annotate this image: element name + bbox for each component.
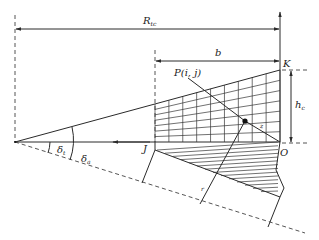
hatch-line xyxy=(205,165,278,170)
hatch-line xyxy=(157,142,278,150)
delta-t-label: δt xyxy=(57,144,66,156)
k-label: K xyxy=(282,58,291,69)
r-tc-label: Rtc xyxy=(142,15,157,27)
hatched-region xyxy=(157,142,278,192)
upper-inclined-line xyxy=(15,70,280,142)
grid-horizontal-line xyxy=(155,101,280,120)
j-label: J xyxy=(141,143,148,154)
r-label: r xyxy=(201,185,205,192)
hatch-line xyxy=(229,176,278,179)
hatch-line xyxy=(173,150,278,157)
b-label: b xyxy=(215,47,221,58)
hatch-line xyxy=(237,180,278,182)
o-radial-line xyxy=(268,197,280,227)
delta-a-arc xyxy=(70,127,74,160)
h-c-label: hc xyxy=(295,99,305,111)
delta-t-arc xyxy=(48,142,50,153)
hatch-line xyxy=(221,172,278,175)
hatch-line xyxy=(165,146,278,153)
hatch-line xyxy=(213,168,278,172)
grid-horizontal-line xyxy=(155,91,280,115)
geometry-diagram: Rtc b hc K O J z r P(i, j) δt δa xyxy=(0,0,319,240)
hatch-line xyxy=(181,153,278,159)
grid-horizontal-line xyxy=(155,80,280,109)
hatch-line xyxy=(245,183,278,185)
o-label: O xyxy=(280,147,288,158)
lower-dashed-line xyxy=(15,142,305,233)
vertex-point xyxy=(14,141,16,143)
p-point xyxy=(242,118,247,123)
p-label: P(i, j) xyxy=(173,67,201,78)
j-radial-line xyxy=(142,150,155,183)
r-line xyxy=(200,121,245,204)
delta-a-label: δa xyxy=(81,153,91,165)
grid-horizontal-line xyxy=(155,132,280,137)
